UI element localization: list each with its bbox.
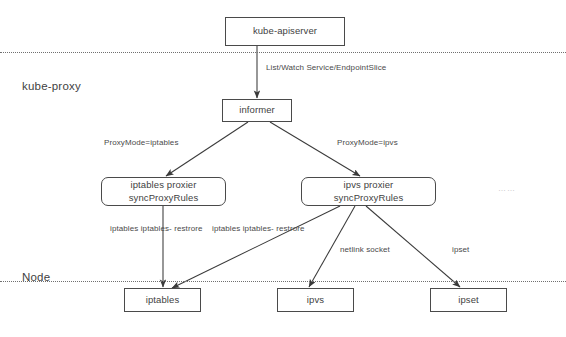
node-ipset[interactable]: ipset bbox=[430, 288, 507, 312]
edge-informer-to-iptables-proxier bbox=[166, 122, 248, 176]
node-iptables[interactable]: iptables bbox=[124, 288, 201, 312]
edge-label-iptables-restore-left: iptables iptables- restrore bbox=[110, 224, 156, 235]
node-ipvs-label: ipvs bbox=[307, 294, 324, 306]
edge-label-netlink-socket-text: netlink socket bbox=[340, 245, 390, 254]
more-indicator-ellipsis: …… bbox=[498, 184, 516, 193]
node-kube-apiserver[interactable]: kube-apiserver bbox=[225, 17, 345, 46]
edge-label-ipset-text: ipset bbox=[452, 245, 469, 254]
edge-label-iptables-restore-right-line3: restrore bbox=[276, 224, 304, 233]
node-kube-apiserver-label: kube-apiserver bbox=[253, 25, 317, 37]
edge-label-list-watch-line1: List/Watch bbox=[266, 63, 304, 72]
zone-label-node: Node bbox=[22, 271, 50, 283]
edge-layer bbox=[0, 0, 566, 337]
node-ipvs-proxier-line2: syncProxyRules bbox=[334, 192, 404, 204]
edge-label-proxymode-ipvs: ProxyMode=ipvs bbox=[337, 138, 398, 149]
edge-label-iptables-restore-right-line2: iptables- bbox=[243, 224, 274, 233]
node-informer[interactable]: informer bbox=[222, 99, 292, 122]
zone-label-kube-proxy: kube-proxy bbox=[22, 80, 81, 92]
edge-label-proxymode-iptables-text: ProxyMode=iptables bbox=[104, 138, 179, 147]
node-iptables-proxier[interactable]: iptables proxier syncProxyRules bbox=[101, 177, 226, 206]
node-iptables-label: iptables bbox=[146, 294, 180, 306]
edge-label-proxymode-ipvs-text: ProxyMode=ipvs bbox=[337, 138, 398, 147]
separator-node bbox=[0, 281, 566, 282]
node-ipvs[interactable]: ipvs bbox=[277, 288, 354, 312]
node-iptables-proxier-line1: iptables proxier bbox=[130, 179, 196, 191]
edge-label-ipset: ipset bbox=[452, 245, 469, 256]
node-informer-label: informer bbox=[239, 104, 275, 116]
edge-label-iptables-restore-right-line1: iptables bbox=[212, 224, 240, 233]
edge-label-iptables-restore-right: iptables iptables- restrore bbox=[212, 224, 258, 235]
edge-label-netlink-socket: netlink socket bbox=[340, 245, 390, 256]
edge-label-iptables-restore-left-line2: iptables- bbox=[141, 224, 172, 233]
edge-label-proxymode-iptables: ProxyMode=iptables bbox=[104, 138, 179, 149]
edge-label-list-watch: List/Watch Service/EndpointSlice bbox=[266, 63, 386, 74]
edge-ipvs-proxier-to-iptables bbox=[172, 206, 340, 288]
node-ipset-label: ipset bbox=[458, 294, 479, 306]
edge-label-iptables-restore-left-line1: iptables bbox=[110, 224, 138, 233]
node-ipvs-proxier[interactable]: ipvs proxier syncProxyRules bbox=[301, 177, 436, 206]
separator-kube-proxy bbox=[0, 52, 566, 53]
node-iptables-proxier-line2: syncProxyRules bbox=[129, 192, 199, 204]
node-ipvs-proxier-line1: ipvs proxier bbox=[344, 179, 394, 191]
edge-informer-to-ipvs-proxier bbox=[270, 122, 360, 176]
edge-label-list-watch-line2: Service/EndpointSlice bbox=[306, 63, 386, 72]
diagram-canvas: kube-proxy Node kube-apiserver informer … bbox=[0, 0, 566, 337]
edge-label-iptables-restore-left-line3: restrore bbox=[174, 224, 202, 233]
